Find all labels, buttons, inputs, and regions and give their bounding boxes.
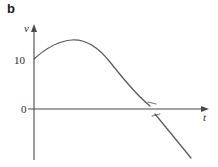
discontinuity-upper-mark: [148, 102, 156, 104]
x-axis-group: t: [28, 106, 209, 123]
velocity-time-plot: v t 10 0: [0, 0, 218, 167]
y-axis-arrowhead-icon: [31, 24, 37, 32]
y-tick-label-0: 0: [21, 103, 27, 115]
velocity-curve-after-impact: [155, 114, 191, 158]
x-axis-label: t: [203, 111, 207, 123]
velocity-curve-before-impact: [34, 40, 150, 106]
y-axis-group: v: [24, 22, 37, 160]
y-tick-label-10: 10: [14, 54, 26, 66]
y-axis-label: v: [24, 22, 29, 34]
figure-panel-b: b v t 10 0: [0, 0, 218, 167]
